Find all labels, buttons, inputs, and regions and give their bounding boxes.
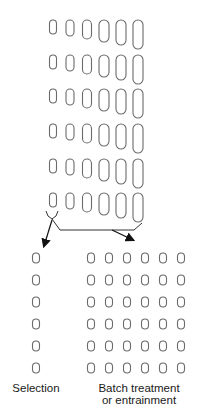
cell-capsule: [33, 319, 40, 329]
cell-capsule: [50, 159, 57, 173]
cell-capsule: [133, 55, 143, 84]
cell-capsule: [133, 20, 143, 49]
cell-capsule: [142, 319, 149, 329]
cell-capsule: [124, 297, 131, 307]
cell-capsule: [88, 275, 95, 285]
cell-capsule: [160, 297, 167, 307]
cell-capsule: [160, 341, 167, 351]
cell-capsule: [178, 341, 185, 351]
cell-capsule: [66, 89, 74, 105]
cell-capsule: [178, 363, 185, 373]
cell-capsule: [124, 341, 131, 351]
cell-capsule: [50, 55, 57, 69]
source-culture-grid: [50, 20, 144, 222]
cell-capsule: [116, 20, 126, 45]
cell-capsule: [66, 124, 74, 140]
cell-capsule: [106, 341, 113, 351]
cell-capsule: [133, 89, 143, 118]
cell-capsule: [124, 275, 131, 285]
batch-label-line2: or entrainment: [84, 394, 194, 406]
cell-capsule: [83, 55, 92, 74]
cell-capsule: [178, 297, 185, 307]
selection-output-column: [33, 253, 40, 373]
cell-capsule: [66, 55, 74, 71]
cell-capsule: [142, 297, 149, 307]
cell-capsule: [106, 319, 113, 329]
batch-bracket: [52, 219, 142, 230]
cell-capsule: [116, 89, 126, 114]
cell-capsule: [116, 55, 126, 80]
cell-capsule: [142, 341, 149, 351]
cell-capsule: [124, 253, 131, 263]
cell-capsule: [50, 20, 57, 34]
selection-label: Selection: [8, 382, 64, 394]
synchronization-diagram: [0, 0, 198, 418]
cell-capsule: [142, 363, 149, 373]
selection-bracket: [46, 211, 58, 219]
cell-capsule: [66, 159, 74, 175]
cell-capsule: [160, 319, 167, 329]
cell-capsule: [88, 253, 95, 263]
cell-capsule: [83, 159, 92, 178]
cell-capsule: [106, 363, 113, 373]
cell-capsule: [83, 193, 92, 212]
cell-capsule: [66, 193, 74, 209]
cell-capsule: [83, 89, 92, 108]
cell-capsule: [88, 319, 95, 329]
cell-capsule: [178, 319, 185, 329]
cell-capsule: [99, 55, 109, 77]
cell-capsule: [106, 253, 113, 263]
cell-capsule: [116, 159, 126, 184]
cell-capsule: [50, 89, 57, 103]
cell-capsule: [66, 20, 74, 36]
cell-capsule: [116, 193, 126, 218]
cell-capsule: [142, 275, 149, 285]
selection-arrow: [44, 220, 52, 246]
cell-capsule: [106, 297, 113, 307]
cell-capsule: [160, 253, 167, 263]
cell-capsule: [160, 275, 167, 285]
cell-capsule: [178, 275, 185, 285]
cell-capsule: [33, 341, 40, 351]
cell-capsule: [124, 363, 131, 373]
batch-arrow: [112, 230, 133, 240]
cell-capsule: [99, 159, 109, 181]
cell-capsule: [133, 124, 143, 153]
cell-capsule: [99, 89, 109, 111]
cell-capsule: [88, 297, 95, 307]
cell-capsule: [83, 20, 92, 39]
batch-label-line1: Batch treatment: [84, 382, 194, 394]
cell-capsule: [133, 193, 143, 222]
cell-capsule: [106, 275, 113, 285]
cell-capsule: [88, 363, 95, 373]
cell-capsule: [99, 124, 109, 146]
batch-treatment-label: Batch treatment or entrainment: [84, 382, 194, 406]
cell-capsule: [33, 363, 40, 373]
cell-capsule: [133, 159, 143, 188]
cell-capsule: [33, 253, 40, 263]
cell-capsule: [99, 193, 109, 215]
cell-capsule: [124, 319, 131, 329]
cell-capsule: [160, 363, 167, 373]
batch-output-grid: [88, 253, 185, 373]
cell-capsule: [50, 124, 57, 138]
cell-capsule: [33, 297, 40, 307]
cell-capsule: [116, 124, 126, 149]
cell-capsule: [142, 253, 149, 263]
cell-capsule: [50, 193, 57, 207]
cell-capsule: [99, 20, 109, 42]
cell-capsule: [83, 124, 92, 143]
cell-capsule: [178, 253, 185, 263]
cell-capsule: [33, 275, 40, 285]
cell-capsule: [88, 341, 95, 351]
